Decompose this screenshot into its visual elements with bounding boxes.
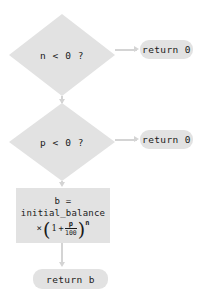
return-node-zero-n-label: return 0 xyxy=(142,44,191,55)
decision-node-p-negative[interactable]: p < 0 ? xyxy=(9,103,115,181)
decision-node-n-negative[interactable]: n < 0 ? xyxy=(9,14,115,96)
formula-plus-sign: + xyxy=(58,224,63,233)
decision-node-p-negative-label: p < 0 ? xyxy=(40,137,84,148)
return-node-zero-p-label: return 0 xyxy=(142,134,191,145)
decision-node-n-negative-label: n < 0 ? xyxy=(40,50,84,61)
process-node-balance-line2: initial_balance xyxy=(21,207,105,219)
connector-p-true-arrowhead xyxy=(134,136,139,142)
formula-fraction-numerator: p xyxy=(69,221,73,229)
return-node-zero-n[interactable]: return 0 xyxy=(140,40,193,59)
connector-n-false-arrowhead xyxy=(59,99,65,104)
flowchart-canvas: n < 0 ? return 0 p < 0 ? return 0 b = in… xyxy=(0,0,197,294)
formula-one-term: 1 xyxy=(51,224,56,233)
formula-multiplication-sign: × xyxy=(37,224,42,233)
return-node-balance-label: return b xyxy=(46,274,95,285)
return-node-balance[interactable]: return b xyxy=(33,269,108,289)
process-node-balance[interactable]: b = initial_balance × ( 1 + p 100 ) n xyxy=(16,188,110,243)
process-node-balance-formula: × ( 1 + p 100 ) n xyxy=(37,221,90,237)
formula-exponent: n xyxy=(85,220,89,227)
formula-fraction-denominator: 100 xyxy=(65,229,77,236)
process-node-balance-line1: b = xyxy=(55,195,72,207)
formula-fraction: p 100 xyxy=(65,221,77,237)
return-node-zero-p[interactable]: return 0 xyxy=(140,130,193,149)
connector-p-false-arrowhead xyxy=(59,182,65,187)
formula-inner-expression: 1 + p 100 xyxy=(50,221,77,237)
connector-n-true-arrowhead xyxy=(134,46,139,52)
connector-balance-arrowhead xyxy=(59,262,65,267)
